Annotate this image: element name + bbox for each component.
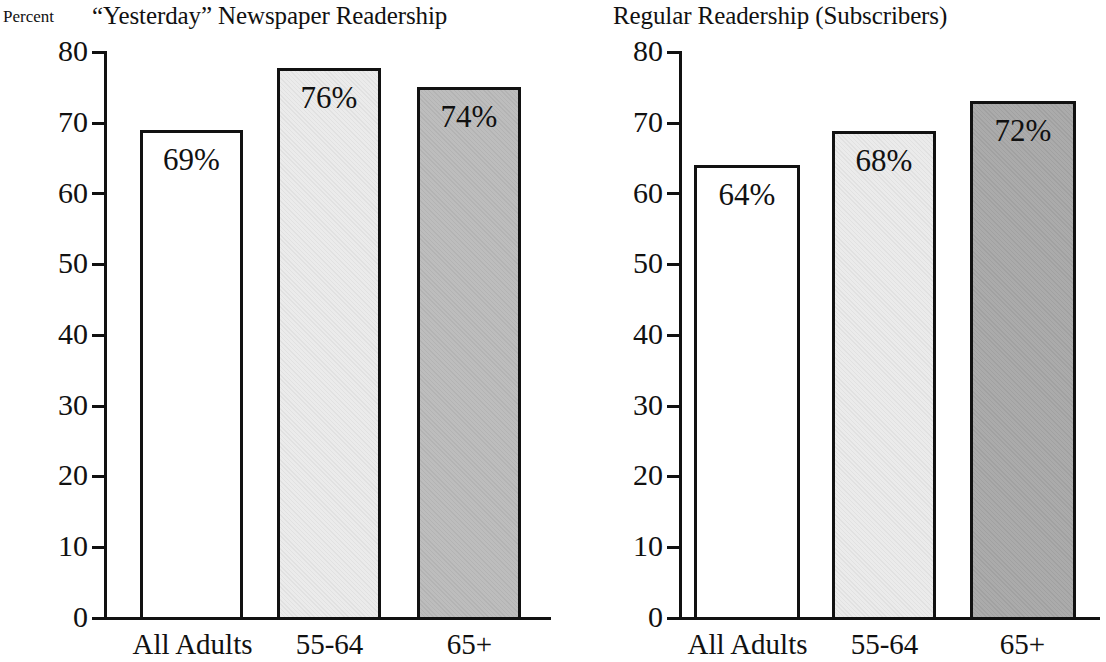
bar-65-plus-right: 72% xyxy=(970,101,1076,620)
y-tick-label-30-right: 30 xyxy=(585,390,663,420)
y-tick-0-left xyxy=(92,617,105,620)
y-tick-20-left xyxy=(92,475,105,478)
bar-value-65-plus-right: 72% xyxy=(973,114,1073,148)
bar-value-all-adults-left: 69% xyxy=(143,143,240,177)
x-category-label-55-64-right: 55-64 xyxy=(827,628,942,660)
bar-all-adults-right: 64% xyxy=(694,165,800,620)
x-category-label-all-adults-left: All Adults xyxy=(115,628,270,660)
y-tick-label-50-right: 50 xyxy=(585,248,663,278)
bar-value-65-plus-left: 74% xyxy=(420,100,518,134)
y-tick-label-70-right: 70 xyxy=(585,107,663,137)
y-tick-label-70-left: 70 xyxy=(10,107,88,137)
chart-panel-right: Regular Readership (Subscribers) 80 70 6… xyxy=(566,0,1106,662)
y-tick-20-right xyxy=(667,475,680,478)
y-tick-label-30-left: 30 xyxy=(10,390,88,420)
bar-value-55-64-right: 68% xyxy=(835,144,933,178)
y-tick-70-right xyxy=(667,122,680,125)
y-tick-label-40-left: 40 xyxy=(10,319,88,349)
y-tick-label-50-left: 50 xyxy=(10,248,88,278)
y-tick-label-80-left: 80 xyxy=(10,36,88,66)
bar-value-all-adults-right: 64% xyxy=(697,178,797,212)
chart-panel-left: Percent “Yesterday” Newspaper Readership… xyxy=(0,0,566,662)
plot-area-left: 80 70 60 50 40 30 20 10 0 69% 76% 74% Al… xyxy=(0,0,566,662)
y-tick-50-left xyxy=(92,263,105,266)
y-tick-0-right xyxy=(667,617,680,620)
y-tick-label-10-left: 10 xyxy=(10,531,88,561)
x-category-label-65-plus-left: 65+ xyxy=(412,628,527,660)
y-tick-40-right xyxy=(667,334,680,337)
x-category-label-all-adults-right: All Adults xyxy=(670,628,825,660)
y-tick-40-left xyxy=(92,334,105,337)
bar-all-adults-left: 69% xyxy=(140,130,243,620)
y-tick-label-60-right: 60 xyxy=(585,178,663,208)
y-tick-label-20-right: 20 xyxy=(585,460,663,490)
bar-55-64-left: 76% xyxy=(277,68,381,620)
y-tick-label-40-right: 40 xyxy=(585,319,663,349)
y-tick-60-left xyxy=(92,192,105,195)
x-category-label-65-plus-right: 65+ xyxy=(965,628,1080,660)
y-tick-10-right xyxy=(667,546,680,549)
bar-65-plus-left: 74% xyxy=(417,87,521,620)
y-tick-label-60-left: 60 xyxy=(10,178,88,208)
y-tick-label-80-right: 80 xyxy=(585,36,663,66)
y-tick-30-left xyxy=(92,405,105,408)
y-tick-30-right xyxy=(667,405,680,408)
y-tick-10-left xyxy=(92,546,105,549)
bar-value-55-64-left: 76% xyxy=(280,81,378,115)
y-tick-80-left xyxy=(92,51,105,54)
bar-55-64-right: 68% xyxy=(832,131,936,620)
y-tick-label-0-left: 0 xyxy=(10,602,88,632)
chart-page: Percent “Yesterday” Newspaper Readership… xyxy=(0,0,1106,662)
y-tick-70-left xyxy=(92,122,105,125)
y-tick-60-right xyxy=(667,192,680,195)
y-tick-label-20-left: 20 xyxy=(10,460,88,490)
y-tick-label-10-right: 10 xyxy=(585,531,663,561)
plot-area-right: 80 70 60 50 40 30 20 10 0 64% 68% 72% Al… xyxy=(566,0,1106,662)
y-tick-label-0-right: 0 xyxy=(585,602,663,632)
y-tick-80-right xyxy=(667,51,680,54)
y-tick-50-right xyxy=(667,263,680,266)
x-category-label-55-64-left: 55-64 xyxy=(272,628,387,660)
